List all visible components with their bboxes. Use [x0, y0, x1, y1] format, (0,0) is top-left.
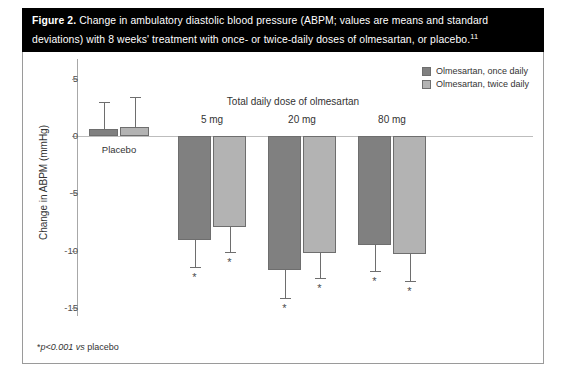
- error-bar-cap: [315, 278, 326, 279]
- bar-Placebo-once-daily: [89, 129, 118, 136]
- error-bar-cap: [405, 281, 416, 282]
- legend-swatch-icon: [422, 67, 431, 76]
- figure-caption: Figure 2. Change in ambulatory diastolic…: [22, 8, 544, 52]
- bar-80-mg-once-daily: [358, 136, 391, 245]
- significance-marker: *: [365, 275, 385, 287]
- chart-footnote: *p<0.001 vs placebo: [37, 342, 119, 352]
- error-bar-cap: [280, 298, 291, 299]
- figure-label: Figure 2.: [32, 15, 76, 26]
- legend-item-0: Olmesartan, once daily: [422, 66, 529, 76]
- group-label-Placebo: Placebo: [79, 144, 159, 155]
- y-axis-label: Change in ABPM (mmHg): [38, 83, 49, 283]
- legend-label: Olmesartan, twice daily: [436, 79, 529, 89]
- footnote-p: p<0.001: [41, 342, 76, 352]
- significance-marker: *: [400, 285, 420, 297]
- figure-reference: 11: [470, 32, 478, 41]
- y-tick--15: -15: [23, 308, 78, 309]
- chart-legend: Olmesartan, once dailyOlmesartan, twice …: [422, 66, 529, 92]
- error-bar: [230, 227, 231, 252]
- bar-20-mg-twice-daily: [303, 136, 336, 253]
- tick-label: -15: [32, 302, 78, 313]
- significance-marker: *: [310, 282, 330, 294]
- bar-20-mg-once-daily: [268, 136, 301, 270]
- y-tick-5: 5: [23, 79, 78, 80]
- chart-plot-area: Olmesartan, once dailyOlmesartan, twice …: [23, 52, 543, 362]
- error-bar-cap: [225, 252, 236, 253]
- bar-5-mg-twice-daily: [213, 136, 246, 227]
- error-bar: [285, 270, 286, 298]
- footnote-vs: vs: [76, 342, 85, 352]
- bar-Placebo-twice-daily: [120, 127, 149, 136]
- error-bar-cap: [130, 97, 141, 98]
- group-label-5-mg: 5 mg: [172, 114, 252, 125]
- error-bar: [104, 102, 105, 130]
- chart-title: Total daily dose of olmesartan: [173, 96, 413, 107]
- legend-label: Olmesartan, once daily: [436, 66, 528, 76]
- error-bar-cap: [190, 267, 201, 268]
- significance-marker: *: [220, 256, 240, 268]
- bar-80-mg-twice-daily: [393, 136, 426, 254]
- footnote-rest: placebo: [85, 342, 119, 352]
- figure-caption-text: Change in ambulatory diastolic blood pre…: [32, 15, 488, 45]
- error-bar: [135, 97, 136, 127]
- error-bar: [375, 245, 376, 271]
- error-bar-cap: [370, 271, 381, 272]
- bar-5-mg-once-daily: [178, 136, 211, 240]
- significance-marker: *: [185, 271, 205, 283]
- error-bar-cap: [99, 102, 110, 103]
- significance-marker: *: [275, 302, 295, 314]
- group-label-80-mg: 80 mg: [352, 114, 432, 125]
- legend-swatch-icon: [422, 80, 431, 89]
- error-bar: [410, 254, 411, 280]
- chart-frame: Olmesartan, once dailyOlmesartan, twice …: [22, 52, 544, 364]
- error-bar: [320, 253, 321, 278]
- y-tick--10: -10: [23, 251, 78, 252]
- figure-container: Figure 2. Change in ambulatory diastolic…: [0, 0, 566, 391]
- error-bar: [195, 240, 196, 266]
- y-tick-0: 0: [23, 136, 78, 137]
- group-label-20-mg: 20 mg: [262, 114, 342, 125]
- legend-item-1: Olmesartan, twice daily: [422, 79, 529, 89]
- y-tick--5: -5: [23, 193, 78, 194]
